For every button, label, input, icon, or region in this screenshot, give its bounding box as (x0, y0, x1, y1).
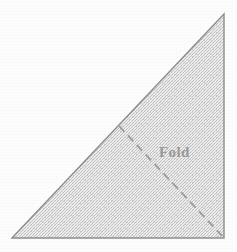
fold-label: Fold (159, 144, 190, 160)
figure-canvas: Fold (0, 0, 237, 252)
triangle-fold-diagram: Fold (0, 0, 237, 252)
